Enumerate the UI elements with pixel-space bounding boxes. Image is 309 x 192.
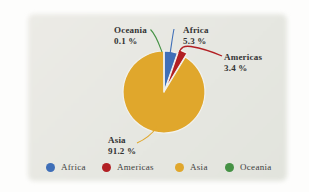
legend-swatch-asia: [175, 163, 184, 172]
callout-oceania: Oceania 0.1 %: [114, 25, 147, 46]
legend-swatch-africa: [46, 163, 55, 172]
legend-label-africa: Africa: [61, 162, 86, 172]
legend-swatch-oceania: [225, 163, 234, 172]
chart-legend: Africa Americas Asia Oceania: [0, 162, 309, 176]
legend-swatch-americas-icon: [102, 163, 111, 172]
pie-chart-figure: Oceania 0.1 % Africa 5.3 % Americas 3.4 …: [0, 0, 309, 192]
legend-label-americas: Americas: [117, 162, 154, 172]
pie-slices-group: [123, 50, 205, 133]
callout-asia-name: Asia: [108, 135, 136, 146]
callout-africa: Africa 5.3 %: [183, 25, 209, 46]
callout-asia: Asia 91.2 %: [108, 135, 136, 156]
legend-swatch-africa-icon: [46, 163, 55, 172]
leader-line-africa: [170, 29, 174, 54]
callout-asia-value: 91.2 %: [108, 146, 136, 157]
legend-swatch-americas: [102, 163, 111, 172]
callout-americas-name: Americas: [224, 52, 262, 63]
callout-oceania-value: 0.1 %: [114, 36, 147, 47]
callout-americas-value: 3.4 %: [224, 63, 262, 74]
callout-oceania-name: Oceania: [114, 25, 147, 36]
leader-line-oceania: [151, 30, 163, 53]
callout-africa-name: Africa: [183, 25, 209, 36]
legend-swatch-asia-icon: [175, 163, 184, 172]
legend-item-oceania: Oceania: [225, 162, 272, 172]
legend-item-africa: Africa: [46, 162, 86, 172]
legend-swatch-oceania-icon: [225, 163, 234, 172]
callout-americas: Americas 3.4 %: [224, 52, 262, 73]
legend-item-asia: Asia: [175, 162, 208, 172]
legend-label-oceania: Oceania: [240, 162, 272, 172]
legend-label-asia: Asia: [190, 162, 208, 172]
callout-africa-value: 5.3 %: [183, 36, 209, 47]
legend-item-americas: Americas: [102, 162, 154, 172]
